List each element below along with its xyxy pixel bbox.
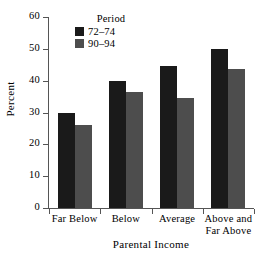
- x-axis-category-line: Far Below: [49, 213, 100, 225]
- y-axis-tick: [43, 144, 48, 145]
- x-axis-tick: [254, 209, 255, 214]
- y-axis-tick: [43, 113, 48, 114]
- bar: [58, 113, 75, 209]
- legend-title: Period: [73, 13, 145, 25]
- x-axis-category-label: Average: [152, 213, 203, 225]
- bar: [160, 66, 177, 208]
- y-axis-title: Percent: [4, 67, 16, 131]
- bar: [126, 92, 143, 208]
- y-axis-tick-label: 60: [18, 11, 40, 21]
- legend-swatch-icon: [75, 39, 84, 48]
- legend-swatch-icon: [75, 27, 84, 36]
- x-axis-title: Parental Income: [48, 238, 254, 250]
- y-axis-tick: [43, 49, 48, 50]
- x-axis-category-line: Far Above: [203, 225, 254, 237]
- legend-entry: 90–94: [73, 38, 145, 49]
- legend-entry-label: 72–74: [88, 26, 115, 37]
- bar: [75, 125, 92, 208]
- legend-entry: 72–74: [73, 26, 145, 37]
- x-axis-category-line: Average: [152, 213, 203, 225]
- x-axis-category-label: Below: [100, 213, 151, 225]
- y-axis-tick-label: 40: [18, 75, 40, 85]
- x-axis-category-label: Above andFar Above: [203, 213, 254, 237]
- x-axis-category-label: Far Below: [49, 213, 100, 225]
- bar: [109, 81, 126, 208]
- bar: [211, 49, 228, 208]
- bar: [228, 69, 245, 208]
- x-axis-category-line: Above and: [203, 213, 254, 225]
- legend-entry-label: 90–94: [88, 38, 115, 49]
- y-axis-tick-label: 0: [18, 202, 40, 212]
- y-axis-tick: [43, 17, 48, 18]
- y-axis-tick: [43, 81, 48, 82]
- x-axis-category-line: Below: [100, 213, 151, 225]
- y-axis-tick-label: 30: [18, 107, 40, 117]
- y-axis-tick-label: 20: [18, 138, 40, 148]
- bar: [177, 98, 194, 208]
- y-axis-tick-label: 50: [18, 43, 40, 53]
- legend-entries: 72–7490–94: [73, 26, 145, 49]
- bar-chart: 0102030405060 Percent Far BelowBelowAver…: [0, 0, 264, 263]
- legend: Period 72–7490–94: [73, 13, 145, 49]
- y-axis-tick-label: 10: [18, 170, 40, 180]
- y-axis-tick: [43, 176, 48, 177]
